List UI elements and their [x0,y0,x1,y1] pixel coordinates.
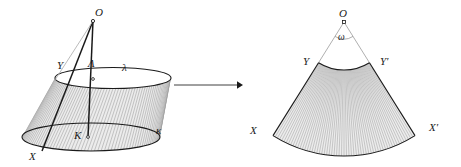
label-right-angle-omega: ω [338,32,345,42]
diagram-svg: O Λ λ Y K κ X [0,0,461,167]
top-center-point-lambda [92,78,95,81]
label-left-top-center-lambda-upper: Λ [87,57,95,69]
label-left-base-circle-kappa: κ [156,124,162,136]
label-right-point-y: Y [303,55,311,67]
label-left-top-circle-lambda: λ [121,61,127,73]
label-right-point-xprime: X′ [428,121,439,133]
apex-point-o-right [343,21,346,24]
label-right-point-yprime: Y′ [380,55,389,67]
base-center-point-k [87,136,90,139]
cone-frustum-group: O Λ λ Y K κ X [22,6,171,162]
apex-point-o [91,19,94,22]
sector-edge-apex-to-y [319,22,344,63]
label-left-point-y: Y [57,59,65,71]
label-right-apex-o: O [339,7,347,19]
circular-sector-group: O ω Y Y′ X X′ [249,7,439,156]
frustum-surface [22,78,171,151]
figure-container: O Λ λ Y K κ X [0,0,461,167]
label-left-base-center-k: K [73,129,82,141]
label-left-point-x: X [28,150,37,162]
sector-edge-apex-to-yprime [344,22,369,63]
label-right-point-x: X [249,124,258,136]
top-circle-lambda [55,68,171,89]
arrow-head-icon [237,81,243,88]
label-left-apex-o: O [95,6,103,18]
transform-arrow-group [174,81,243,88]
